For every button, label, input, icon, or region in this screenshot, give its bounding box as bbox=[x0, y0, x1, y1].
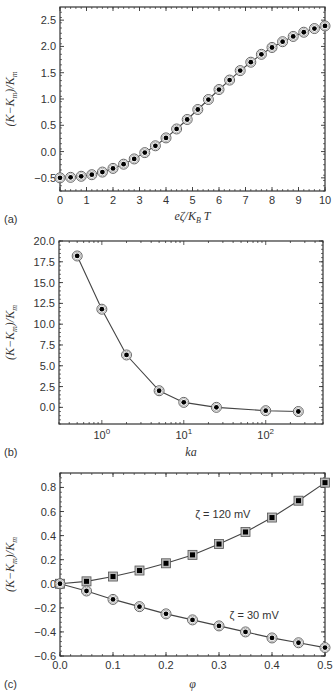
x-tick-label: 6 bbox=[216, 194, 222, 206]
square-marker-dot bbox=[217, 542, 222, 547]
x-tick-label: 2 bbox=[110, 194, 116, 206]
circle-marker-dot bbox=[185, 117, 190, 122]
x-tick-label: 100 bbox=[93, 427, 110, 441]
circle-marker-dot bbox=[296, 409, 301, 414]
circle-marker-dot bbox=[153, 143, 158, 148]
circle-marker-dot bbox=[79, 174, 84, 179]
y-tick-label: −0.2 bbox=[34, 602, 56, 614]
square-marker-dot bbox=[111, 574, 116, 579]
panel-label: (b) bbox=[4, 446, 17, 458]
circle-marker-dot bbox=[195, 107, 200, 112]
square-marker-dot bbox=[84, 579, 89, 584]
circle-marker-dot bbox=[124, 353, 129, 358]
circle-marker-dot bbox=[270, 636, 275, 641]
square-marker-dot bbox=[296, 498, 301, 503]
circle-marker-dot bbox=[312, 26, 317, 31]
circle-marker-dot bbox=[132, 157, 137, 162]
circle-marker-dot bbox=[68, 175, 73, 180]
circle-marker-dot bbox=[323, 24, 328, 29]
circle-marker-dot bbox=[238, 68, 243, 73]
circle-marker-dot bbox=[89, 172, 94, 177]
circle-marker-dot bbox=[100, 170, 105, 175]
series-line bbox=[60, 483, 325, 584]
x-axis-label: ka bbox=[185, 445, 196, 459]
x-tick-label: 9 bbox=[295, 194, 301, 206]
x-axis-label: φ bbox=[189, 677, 196, 691]
panel-label: (c) bbox=[4, 678, 17, 690]
x-tick-label: 4 bbox=[163, 194, 169, 206]
circle-marker-dot bbox=[164, 611, 169, 616]
circle-marker-dot bbox=[75, 254, 80, 259]
circle-marker-dot bbox=[181, 400, 186, 405]
series-annotation: ζ = 30 mV bbox=[230, 609, 280, 621]
circle-marker-dot bbox=[270, 45, 275, 50]
series-annotation: ζ = 120 mV bbox=[195, 508, 251, 520]
circle-marker-dot bbox=[217, 87, 222, 92]
x-tick-label: 0.2 bbox=[158, 659, 173, 671]
y-tick-label: 0.0 bbox=[40, 401, 55, 413]
square-marker-dot bbox=[164, 561, 169, 566]
circle-marker-dot bbox=[259, 52, 264, 57]
x-axis-label: eζ/KB T bbox=[174, 209, 211, 225]
circle-marker-dot bbox=[58, 581, 63, 586]
circle-marker-dot bbox=[280, 39, 285, 44]
y-tick-label: 0.2 bbox=[41, 554, 56, 566]
x-tick-label: 5 bbox=[189, 194, 195, 206]
y-tick-label: 2.5 bbox=[40, 381, 55, 393]
x-tick-label: 0.0 bbox=[52, 659, 67, 671]
circle-marker-dot bbox=[99, 307, 104, 312]
y-tick-label: 17.5 bbox=[34, 256, 55, 268]
y-tick-label: 10.0 bbox=[34, 318, 55, 330]
panel-label: (a) bbox=[4, 213, 17, 225]
circle-marker-dot bbox=[121, 162, 126, 167]
circle-marker-dot bbox=[206, 97, 211, 102]
y-tick-label: 1.5 bbox=[41, 67, 56, 79]
chart-canvas: −0.50.00.51.01.52.02.5012345678910(K−Km)… bbox=[0, 0, 335, 693]
square-marker-dot bbox=[137, 568, 142, 573]
x-tick-label: 8 bbox=[269, 194, 275, 206]
circle-marker-dot bbox=[142, 150, 147, 155]
circle-marker-dot bbox=[227, 78, 232, 83]
figure: −0.50.00.51.01.52.02.5012345678910(K−Km)… bbox=[0, 0, 335, 693]
circle-marker-dot bbox=[164, 136, 169, 141]
chart-panel-b: 0.02.55.07.510.012.515.017.520.010010110… bbox=[3, 235, 323, 459]
y-tick-label: 7.5 bbox=[40, 339, 55, 351]
plot-frame bbox=[60, 7, 325, 191]
plot-frame bbox=[59, 241, 323, 424]
chart-panel-c: −0.6−0.4−0.20.00.20.40.60.80.00.10.20.30… bbox=[3, 473, 333, 691]
x-tick-label: 0 bbox=[57, 194, 63, 206]
y-tick-label: 5.0 bbox=[40, 360, 55, 372]
y-axis-label: (K−Km)/Km bbox=[3, 71, 19, 126]
y-tick-label: 0.5 bbox=[41, 119, 56, 131]
x-tick-label: 102 bbox=[257, 427, 274, 441]
circle-marker-dot bbox=[190, 617, 195, 622]
series-line bbox=[77, 256, 298, 412]
circle-marker-dot bbox=[174, 127, 179, 132]
y-axis-label: (K−Km)/Km bbox=[3, 305, 19, 360]
circle-marker-dot bbox=[214, 405, 219, 410]
x-tick-label: 0.5 bbox=[317, 659, 332, 671]
y-tick-label: 12.5 bbox=[34, 297, 55, 309]
y-tick-label: 2.0 bbox=[41, 40, 56, 52]
circle-marker-dot bbox=[296, 640, 301, 645]
circle-marker-dot bbox=[243, 630, 248, 635]
x-tick-label: 3 bbox=[136, 194, 142, 206]
y-tick-label: 0.6 bbox=[41, 506, 56, 518]
circle-marker-dot bbox=[248, 60, 253, 65]
y-tick-label: 1.0 bbox=[41, 93, 56, 105]
square-marker-dot bbox=[190, 552, 195, 557]
x-tick-label: 7 bbox=[242, 194, 248, 206]
x-tick-label: 0.3 bbox=[211, 659, 226, 671]
circle-marker-dot bbox=[84, 589, 89, 594]
series-line bbox=[60, 26, 325, 178]
circle-marker-dot bbox=[157, 388, 162, 393]
y-tick-label: −0.4 bbox=[34, 626, 56, 638]
x-tick-label: 1 bbox=[83, 194, 89, 206]
circle-marker-dot bbox=[301, 30, 306, 35]
y-tick-label: 2.5 bbox=[41, 14, 56, 26]
y-tick-label: 20.0 bbox=[34, 235, 55, 247]
y-tick-label: 15.0 bbox=[34, 277, 55, 289]
y-tick-label: 0.8 bbox=[41, 481, 56, 493]
circle-marker-dot bbox=[291, 34, 296, 39]
circle-marker-dot bbox=[111, 166, 116, 171]
